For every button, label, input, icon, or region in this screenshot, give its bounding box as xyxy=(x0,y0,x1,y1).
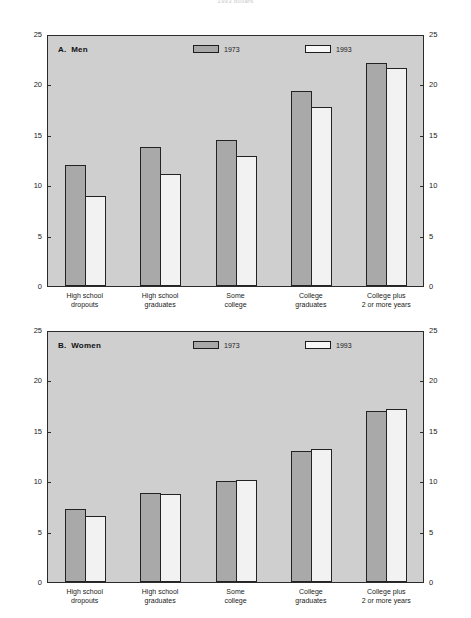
y-tick-label-left: 20 xyxy=(22,81,42,89)
category-label-line2: 2 or more years xyxy=(362,597,411,604)
category-label-line2: graduates xyxy=(145,597,176,604)
y-tick-label-right: 10 xyxy=(429,478,449,486)
bar-group xyxy=(291,36,333,286)
category-label-line2: college xyxy=(224,597,246,604)
y-tick-mark-left xyxy=(47,237,51,238)
y-tick-mark-left xyxy=(47,432,51,433)
category-label-line2: graduates xyxy=(145,301,176,308)
y-tick-mark-right xyxy=(420,85,424,86)
category-label-line1: Some xyxy=(226,292,244,299)
y-tick-mark-left xyxy=(47,136,51,137)
bar-1973 xyxy=(216,140,237,286)
bar-1993 xyxy=(160,494,181,582)
y-tick-label-left: 20 xyxy=(22,377,42,385)
y-tick-mark-left xyxy=(47,381,51,382)
bar-group xyxy=(65,36,107,286)
bar-group xyxy=(291,332,333,582)
y-tick-label-right: 5 xyxy=(429,233,449,241)
bar-1993 xyxy=(386,409,407,582)
y-tick-label-left: 25 xyxy=(22,31,42,39)
category-label-line2: graduates xyxy=(295,597,326,604)
figure-title: 1993 dollars xyxy=(0,0,471,4)
category-label-line1: College plus xyxy=(367,588,406,595)
y-tick-mark-right xyxy=(420,482,424,483)
bar-1993 xyxy=(236,156,257,286)
y-tick-mark-left xyxy=(47,186,51,187)
y-tick-label-left: 15 xyxy=(22,428,42,436)
bar-group xyxy=(65,332,107,582)
bar-1993 xyxy=(236,480,257,582)
category-label-line1: College xyxy=(299,292,323,299)
y-tick-label-right: 25 xyxy=(429,327,449,335)
bar-group xyxy=(366,332,408,582)
category-labels-men: High schooldropoutsHigh schoolgraduatesS… xyxy=(47,291,424,315)
category-label-line1: High school xyxy=(66,292,103,299)
bars-women xyxy=(48,332,423,582)
y-tick-label-right: 20 xyxy=(429,81,449,89)
y-tick-mark-right xyxy=(420,533,424,534)
bar-1993 xyxy=(85,516,106,582)
y-tick-label-left: 15 xyxy=(22,132,42,140)
y-tick-label-left: 5 xyxy=(22,233,42,241)
bar-1973 xyxy=(291,91,312,286)
y-tick-label-left: 0 xyxy=(22,283,42,291)
y-tick-label-left: 10 xyxy=(22,478,42,486)
panel-men: A. Men 1973 1993 00551010151520202525 Hi… xyxy=(0,28,471,324)
y-tick-mark-right xyxy=(420,136,424,137)
category-label-line2: dropouts xyxy=(71,301,98,308)
bar-1973 xyxy=(366,411,387,582)
bar-group xyxy=(140,332,182,582)
category-label-line1: College xyxy=(299,588,323,595)
y-tick-label-left: 10 xyxy=(22,182,42,190)
y-tick-label-right: 5 xyxy=(429,529,449,537)
y-tick-mark-right xyxy=(420,237,424,238)
bar-1973 xyxy=(140,147,161,286)
y-tick-label-left: 0 xyxy=(22,579,42,587)
category-labels-women: High schooldropoutsHigh schoolgraduatesS… xyxy=(47,587,424,611)
bar-1973 xyxy=(65,165,86,286)
bar-1993 xyxy=(386,68,407,286)
category-label-line2: college xyxy=(224,301,246,308)
category-label-line1: Some xyxy=(226,588,244,595)
y-tick-mark-left xyxy=(47,482,51,483)
category-label-line2: graduates xyxy=(295,301,326,308)
category-label-line2: 2 or more years xyxy=(362,301,411,308)
category-label: College plus2 or more years xyxy=(338,587,434,605)
category-label: College plus2 or more years xyxy=(338,291,434,309)
bar-group xyxy=(216,332,258,582)
bars-men xyxy=(48,36,423,286)
y-tick-mark-left xyxy=(47,85,51,86)
y-tick-label-right: 15 xyxy=(429,132,449,140)
bar-1973 xyxy=(216,481,237,582)
bar-1993 xyxy=(311,107,332,286)
y-tick-label-right: 0 xyxy=(429,283,449,291)
category-label-line2: dropouts xyxy=(71,597,98,604)
chart-page: 1993 dollars A. Men 1973 1993 0055101015… xyxy=(0,0,471,618)
y-tick-label-left: 5 xyxy=(22,529,42,537)
bar-1973 xyxy=(65,509,86,582)
plot-area-men: A. Men 1973 1993 xyxy=(47,35,424,287)
y-tick-mark-left xyxy=(47,533,51,534)
category-label-line1: High school xyxy=(142,588,179,595)
bar-1973 xyxy=(366,63,387,286)
plot-area-women: B. Women 1973 1993 xyxy=(47,331,424,583)
y-tick-label-right: 0 xyxy=(429,579,449,587)
bar-1993 xyxy=(85,196,106,286)
category-label-line1: High school xyxy=(66,588,103,595)
bar-1973 xyxy=(291,451,312,582)
category-label-line1: College plus xyxy=(367,292,406,299)
y-tick-label-right: 10 xyxy=(429,182,449,190)
y-tick-mark-right xyxy=(420,381,424,382)
y-tick-mark-right xyxy=(420,186,424,187)
bar-1973 xyxy=(140,493,161,582)
bar-group xyxy=(140,36,182,286)
panel-women: B. Women 1973 1993 00551010151520202525 … xyxy=(0,324,471,618)
category-label-line1: High school xyxy=(142,292,179,299)
bar-group xyxy=(216,36,258,286)
y-tick-label-right: 20 xyxy=(429,377,449,385)
y-tick-label-left: 25 xyxy=(22,327,42,335)
y-tick-label-right: 25 xyxy=(429,31,449,39)
bar-1993 xyxy=(160,174,181,286)
bar-group xyxy=(366,36,408,286)
y-tick-label-right: 15 xyxy=(429,428,449,436)
